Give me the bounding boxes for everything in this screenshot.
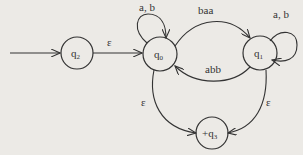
automaton-diagram: ε a, b baa abb a, b ε ε q2 q0 q1 [0,0,303,155]
edge-q0-q3: ε [141,70,196,133]
state-q1: q1 [243,36,277,70]
edge-q1-q0: abb [175,63,250,81]
edge-label-q1-q0: abb [205,63,221,75]
svg-text:q0: q0 [154,48,164,62]
state-q3-final: +q3 [196,117,228,149]
state-q0: q0 [143,37,177,71]
edge-q1-q3: ε [228,70,271,133]
edge-label-q0-loop: a, b [139,1,155,13]
svg-text:q1: q1 [254,47,264,61]
state-q2: q2 [61,37,93,69]
svg-text:q2: q2 [71,47,81,61]
edge-label-q0-q1: baa [198,4,213,16]
svg-text:+q3: +q3 [202,127,218,141]
edge-q2-q0: ε [93,36,142,53]
edge-q0-q1: baa [175,4,250,46]
edge-label-q1-loop: a, b [273,8,289,20]
edge-q1-loop: a, b [270,8,297,61]
edge-label-q1-q3: ε [266,96,271,108]
edge-label-q2-q0: ε [107,36,112,48]
edge-label-q0-q3: ε [141,96,146,108]
